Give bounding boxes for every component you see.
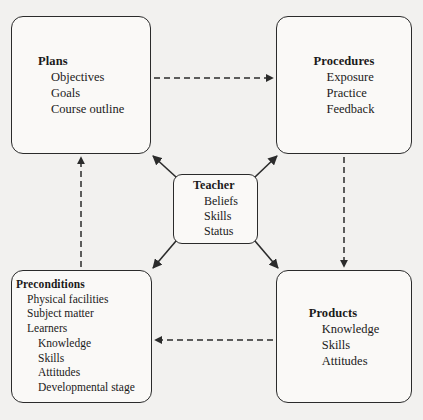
node-products-text: Products Knowledge Skills Attitudes <box>309 305 380 369</box>
node-procedures[interactable]: Procedures Exposure Practice Feedback <box>276 16 412 154</box>
node-products-item-2: Attitudes <box>309 353 380 369</box>
node-plans-item-2: Course outline <box>38 101 124 117</box>
node-plans-content: Plans Objectives Goals Course outline <box>12 17 176 153</box>
node-teacher-item-2: Status <box>193 224 238 239</box>
node-procedures-title: Procedures <box>314 53 375 69</box>
node-plans[interactable]: Plans Objectives Goals Course outline <box>11 16 151 154</box>
node-preconditions-item-1: Subject matter <box>16 306 135 321</box>
node-plans-item-0: Objectives <box>38 69 124 85</box>
connector-teacher-to-plans <box>153 156 176 177</box>
node-products-title: Products <box>309 305 380 321</box>
node-preconditions-item-4: Skills <box>16 351 135 366</box>
node-plans-item-1: Goals <box>38 85 124 101</box>
node-procedures-item-0: Exposure <box>314 69 375 85</box>
node-plans-text: Plans Objectives Goals Course outline <box>38 53 124 117</box>
connector-teacher-to-products <box>255 241 278 268</box>
node-teacher-content: Teacher Beliefs Skills Status <box>174 175 257 243</box>
node-procedures-text: Procedures Exposure Practice Feedback <box>314 53 375 117</box>
node-preconditions-item-0: Physical facilities <box>16 292 135 307</box>
node-preconditions-title: Preconditions <box>16 277 135 292</box>
node-procedures-item-2: Feedback <box>314 101 375 117</box>
node-products-content: Products Knowledge Skills Attitudes <box>277 271 411 402</box>
node-teacher-item-0: Beliefs <box>193 194 238 209</box>
node-preconditions-item-3: Knowledge <box>16 336 135 351</box>
node-procedures-item-1: Practice <box>314 85 375 101</box>
node-preconditions[interactable]: Preconditions Physical facilities Subjec… <box>11 270 152 403</box>
node-preconditions-item-5: Attitudes <box>16 365 135 380</box>
connector-teacher-to-preconditions <box>153 241 176 268</box>
diagram-canvas: Plans Objectives Goals Course outline Pr… <box>0 0 423 420</box>
node-teacher[interactable]: Teacher Beliefs Skills Status <box>173 174 258 244</box>
node-procedures-content: Procedures Exposure Practice Feedback <box>277 17 411 153</box>
node-preconditions-item-6: Developmental stage <box>16 380 135 395</box>
node-products-item-0: Knowledge <box>309 321 380 337</box>
node-preconditions-content: Preconditions Physical facilities Subjec… <box>12 271 155 408</box>
node-preconditions-item-2: Learners <box>16 321 135 336</box>
connector-teacher-to-procedures <box>255 156 277 177</box>
node-preconditions-text: Preconditions Physical facilities Subjec… <box>16 277 135 395</box>
node-teacher-title: Teacher <box>193 178 238 193</box>
node-teacher-item-1: Skills <box>193 209 238 224</box>
node-teacher-text: Teacher Beliefs Skills Status <box>193 178 238 239</box>
node-products-item-1: Skills <box>309 337 380 353</box>
node-plans-title: Plans <box>38 53 124 69</box>
node-products[interactable]: Products Knowledge Skills Attitudes <box>276 270 412 403</box>
